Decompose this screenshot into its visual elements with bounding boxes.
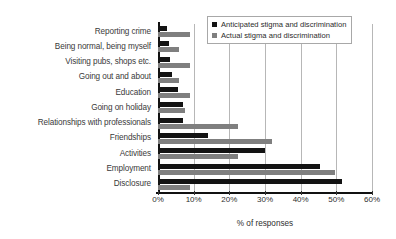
x-tick-mark	[372, 191, 373, 195]
legend-item-anticipated: Anticipated stigma and discrimination	[212, 20, 346, 29]
bar	[158, 93, 190, 98]
legend-swatch-icon	[212, 33, 217, 38]
bar	[158, 139, 272, 144]
category-label: Relationships with professionals	[0, 116, 155, 131]
bar	[158, 108, 185, 113]
x-tick-label: 20%	[221, 195, 237, 204]
category-label: Going on holiday	[0, 100, 155, 115]
bar	[158, 57, 170, 62]
x-tick-label: 40%	[293, 195, 309, 204]
category-label: Friendships	[0, 131, 155, 146]
category-label: Going out and about	[0, 70, 155, 85]
bar-chart: Reporting crimeBeing normal, being mysel…	[0, 0, 396, 239]
x-tick-mark	[265, 191, 266, 195]
legend-swatch-icon	[212, 22, 217, 27]
category-label: Education	[0, 85, 155, 100]
gridline	[372, 24, 373, 192]
x-tick-label: 60%	[364, 195, 380, 204]
bar	[158, 148, 265, 153]
legend-label: Anticipated stigma and discrimination	[221, 20, 346, 29]
bar	[158, 124, 238, 129]
bar	[158, 164, 320, 169]
x-tick-mark	[336, 191, 337, 195]
category-label: Being normal, being myself	[0, 39, 155, 54]
category-label: Reporting crime	[0, 24, 155, 39]
bar	[158, 47, 179, 52]
bar-group	[158, 55, 372, 70]
x-axis-tick-labels: 0%10%20%30%40%50%60%	[158, 195, 372, 209]
bar	[158, 118, 183, 123]
x-axis-line	[156, 192, 372, 194]
bar	[158, 26, 167, 31]
category-label: Disclosure	[0, 177, 155, 192]
bar-group	[158, 100, 372, 115]
category-label: Activities	[0, 146, 155, 161]
bar	[158, 133, 208, 138]
bar	[158, 179, 342, 184]
x-tick-mark	[301, 191, 302, 195]
bar	[158, 78, 179, 83]
legend-item-actual: Actual stigma and discrimination	[212, 31, 346, 40]
bar-group	[158, 146, 372, 161]
bar-group	[158, 116, 372, 131]
bar	[158, 72, 172, 77]
bar-group	[158, 131, 372, 146]
bar	[158, 185, 190, 190]
x-tick-label: 50%	[328, 195, 344, 204]
x-tick-label: 10%	[186, 195, 202, 204]
bar	[158, 32, 190, 37]
bar	[158, 170, 335, 175]
bar	[158, 87, 178, 92]
y-axis-category-labels: Reporting crimeBeing normal, being mysel…	[0, 24, 155, 192]
x-tick-label: 30%	[257, 195, 273, 204]
legend-label: Actual stigma and discrimination	[221, 31, 330, 40]
x-tick-mark	[194, 191, 195, 195]
bar	[158, 63, 190, 68]
category-label: Employment	[0, 161, 155, 176]
x-tick-label: 0%	[152, 195, 164, 204]
chart-legend: Anticipated stigma and discrimination Ac…	[207, 16, 352, 44]
bar-group	[158, 70, 372, 85]
bar	[158, 154, 238, 159]
bar	[158, 41, 169, 46]
bar-group	[158, 177, 372, 192]
x-tick-mark	[229, 191, 230, 195]
bar-groups	[158, 24, 372, 192]
plot-area	[158, 24, 372, 192]
bar-group	[158, 161, 372, 176]
bar	[158, 102, 183, 107]
x-axis-title: % of responses	[158, 219, 372, 228]
x-tick-mark	[158, 191, 159, 195]
bar-group	[158, 85, 372, 100]
category-label: Visiting pubs, shops etc.	[0, 55, 155, 70]
